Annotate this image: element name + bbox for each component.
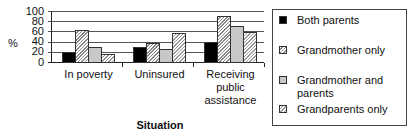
legend-label: Grandmother only: [297, 44, 407, 57]
legend: Both parents Grandmother only Grandmothe…: [272, 9, 407, 126]
bar: [243, 32, 257, 63]
y-axis-label: %: [8, 37, 18, 49]
legend-label: Grandparents only: [297, 103, 407, 116]
bar: [204, 42, 218, 63]
bar: [217, 16, 231, 63]
bar: [230, 26, 244, 63]
x-category-label: Receivingpublicassistance: [195, 68, 266, 107]
bar: [101, 54, 115, 63]
x-tick: [264, 63, 265, 67]
x-axis-title: Situation: [100, 119, 220, 131]
x-tick: [122, 63, 123, 67]
x-category-label: In poverty: [53, 68, 124, 81]
bar: [62, 52, 76, 63]
legend-swatch-icon: [279, 105, 287, 113]
x-tick: [193, 63, 194, 67]
y-axis-line: [51, 11, 52, 63]
bar: [159, 49, 173, 63]
gridline: [48, 21, 264, 22]
gridline: [48, 11, 264, 12]
legend-swatch-icon: [279, 16, 287, 24]
x-category-label: Uninsured: [124, 68, 195, 81]
bar: [88, 47, 102, 63]
bar: [133, 47, 147, 63]
bar: [75, 30, 89, 63]
legend-label: Grandmother and parents: [297, 74, 397, 100]
legend-label: Both parents: [297, 14, 407, 27]
y-tick-label: 0: [22, 57, 44, 68]
legend-swatch-icon: [279, 46, 287, 54]
bar: [172, 33, 186, 63]
legend-swatch-icon: [279, 76, 287, 84]
bar: [146, 43, 160, 63]
